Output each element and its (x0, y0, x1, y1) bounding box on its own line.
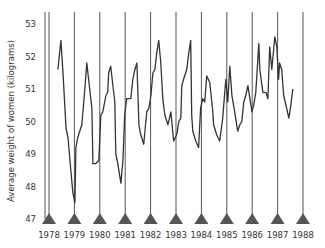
triangle-marker-icon (67, 213, 81, 224)
x-axis-year-markers: 1978197919801981198219831984198519861987… (38, 213, 314, 240)
x-tick-label: 1980 (89, 230, 111, 240)
x-tick-label: 1987 (267, 230, 289, 240)
triangle-marker-icon (169, 213, 183, 224)
triangle-marker-icon (93, 213, 107, 224)
x-tick-label: 1984 (191, 230, 213, 240)
y-tick-label: 50 (25, 117, 36, 127)
x-tick-label: 1978 (38, 230, 60, 240)
y-tick-label: 49 (25, 149, 36, 159)
y-tick-label: 52 (25, 52, 36, 62)
x-tick-label: 1982 (140, 230, 162, 240)
y-tick-label: 53 (25, 19, 36, 29)
x-tick-label: 1979 (64, 230, 86, 240)
triangle-marker-icon (245, 213, 259, 224)
x-tick-label: 1988 (292, 230, 314, 240)
y-axis-title: Average weight of women (kilograms) (6, 40, 16, 202)
triangle-marker-icon (296, 213, 310, 224)
triangle-marker-icon (220, 213, 234, 224)
y-axis-ticks: 47484950515253 (25, 19, 36, 224)
x-tick-label: 1985 (216, 230, 238, 240)
x-tick-label: 1986 (241, 230, 263, 240)
y-tick-label: 48 (25, 182, 36, 192)
triangle-marker-icon (118, 213, 132, 224)
triangle-marker-icon (194, 213, 208, 224)
y-tick-label: 51 (25, 84, 36, 94)
weight-series-line (58, 37, 293, 203)
triangle-marker-icon (42, 213, 56, 224)
x-tick-label: 1983 (165, 230, 187, 240)
triangle-marker-icon (271, 213, 285, 224)
y-tick-label: 47 (25, 214, 36, 224)
triangle-marker-icon (144, 213, 158, 224)
x-tick-label: 1981 (114, 230, 136, 240)
year-gridlines (49, 12, 303, 216)
line-chart: Average weight of women (kilograms) 4748… (0, 0, 325, 248)
